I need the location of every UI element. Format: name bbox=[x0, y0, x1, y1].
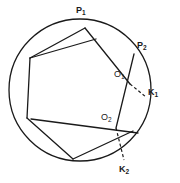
chord-p2-o2 bbox=[116, 54, 134, 128]
label-k2: K2 bbox=[119, 165, 129, 174]
inscribed-hexagon bbox=[27, 28, 133, 159]
label-o1: O1 bbox=[114, 70, 125, 79]
label-k1: K1 bbox=[148, 88, 158, 97]
chord-lower-right bbox=[31, 119, 138, 133]
geometry-figure: P1 P2 K1 O1 O2 K2 bbox=[0, 0, 180, 183]
label-p1: P1 bbox=[76, 6, 86, 15]
dashed-o2-k2 bbox=[116, 128, 124, 160]
hexagon-side-2 bbox=[27, 58, 30, 118]
construction-chords bbox=[30, 28, 138, 133]
chord-left-upper bbox=[30, 39, 96, 58]
label-p2: P2 bbox=[137, 41, 147, 50]
dashed-o1-k1 bbox=[130, 84, 146, 97]
circumscribed-circle bbox=[9, 19, 151, 161]
label-o2: O2 bbox=[101, 113, 112, 122]
